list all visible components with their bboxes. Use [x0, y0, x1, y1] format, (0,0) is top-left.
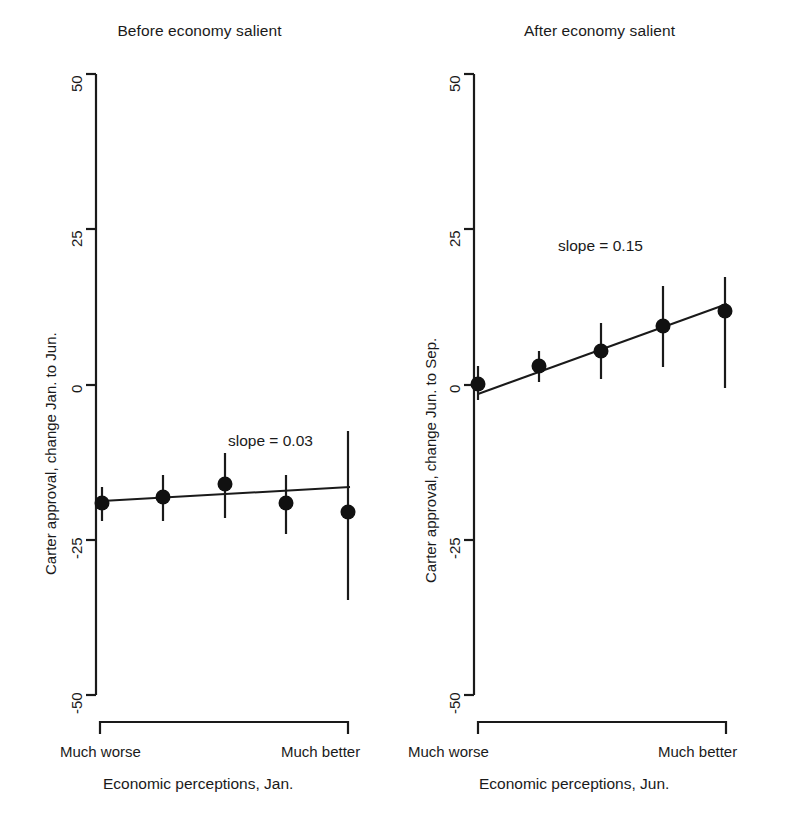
x-axis-bracket-left [100, 722, 348, 734]
data-point-2-left [156, 490, 171, 505]
data-point-4-left [279, 496, 294, 511]
plot-area-right [400, 0, 799, 827]
slope-annotation-right: slope = 0.15 [558, 237, 643, 255]
x-axis-high-label-right: Much better [658, 743, 737, 760]
error-bars-left [102, 431, 348, 600]
slope-annotation-left: slope = 0.03 [228, 432, 313, 450]
data-point-3-right [594, 344, 609, 359]
x-axis-low-label-right: Much worse [408, 743, 489, 760]
x-axis-bracket-right [478, 722, 726, 734]
x-axis-label-right: Economic perceptions, Jun. [479, 775, 669, 793]
figure-canvas: Before economy salient Carter approval, … [0, 0, 799, 827]
data-point-4-right [656, 319, 671, 334]
plot-area-left [0, 0, 399, 827]
x-axis-low-label-left: Much worse [60, 743, 141, 760]
data-point-5-right [718, 304, 733, 319]
x-axis-label-left: Economic perceptions, Jan. [103, 775, 293, 793]
x-axis-high-label-left: Much better [281, 743, 360, 760]
chart-panel-right: After economy salient Carter approval, c… [400, 0, 799, 827]
data-point-1-right [471, 377, 486, 392]
data-point-2-right [532, 359, 547, 374]
chart-panel-left: Before economy salient Carter approval, … [0, 0, 399, 827]
data-point-1-left [95, 496, 110, 511]
data-point-5-left [341, 505, 356, 520]
data-point-3-left [218, 477, 233, 492]
